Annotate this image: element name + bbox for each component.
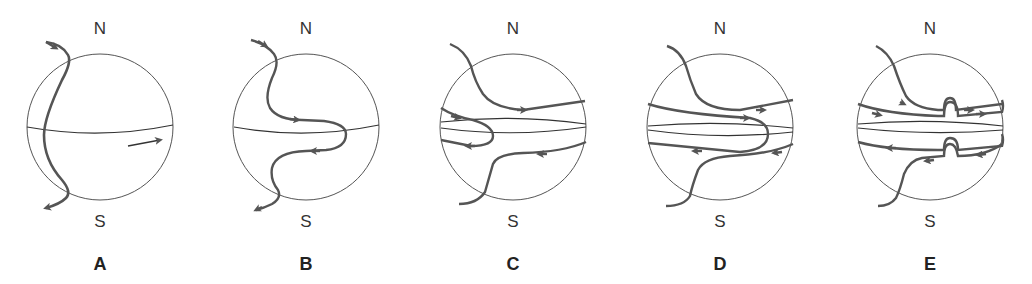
south-label: S xyxy=(700,212,740,232)
panel-label: D xyxy=(700,254,740,275)
field-line-south xyxy=(666,144,793,206)
latitude-line xyxy=(858,121,1003,126)
field-loop-south xyxy=(858,134,1003,150)
equator xyxy=(858,128,1003,133)
sphere xyxy=(440,54,586,200)
north-label: N xyxy=(910,19,950,39)
panel-a-diagram xyxy=(0,0,206,284)
north-label: N xyxy=(286,19,326,39)
sphere xyxy=(27,54,173,200)
south-label: S xyxy=(493,212,533,232)
panel-b-diagram xyxy=(206,0,412,284)
latitude-line xyxy=(441,118,586,124)
north-label: N xyxy=(700,19,740,39)
equator xyxy=(234,125,379,133)
panel-b: N S B xyxy=(206,0,412,284)
south-label: S xyxy=(80,212,120,232)
panel-d-diagram xyxy=(620,0,826,284)
sphere xyxy=(647,54,793,200)
panel-e: N S E xyxy=(826,0,1032,284)
equator xyxy=(441,127,586,133)
panel-c-diagram xyxy=(413,0,619,284)
sphere xyxy=(233,54,379,200)
north-label: N xyxy=(493,19,533,39)
sphere xyxy=(857,54,1003,200)
panel-d: N S D xyxy=(620,0,826,284)
panel-label: B xyxy=(286,254,326,275)
panel-label: A xyxy=(80,254,120,275)
solar-dynamo-figure: N S A N S B N xyxy=(0,0,1032,284)
field-line xyxy=(251,40,346,210)
field-line-north xyxy=(876,46,1002,110)
panel-e-diagram xyxy=(826,0,1032,284)
south-label: S xyxy=(910,212,950,232)
field-loop xyxy=(648,104,768,152)
panel-c: N S C xyxy=(413,0,619,284)
latitude-line xyxy=(648,123,793,128)
north-label: N xyxy=(80,19,120,39)
equator xyxy=(648,130,793,136)
field-loop xyxy=(441,108,493,146)
rotation-arrow-icon xyxy=(128,140,160,146)
equator xyxy=(27,125,173,133)
panel-label: C xyxy=(493,254,533,275)
field-line xyxy=(44,42,69,208)
panel-label: E xyxy=(910,254,950,275)
south-label: S xyxy=(286,212,326,232)
panel-a: N S A xyxy=(0,0,206,284)
field-line-south xyxy=(459,142,586,204)
